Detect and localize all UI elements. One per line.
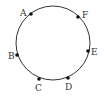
- circle-diagram: AFEDCB: [0, 0, 105, 100]
- point-label-a: A: [19, 8, 27, 18]
- point-label-e: E: [91, 47, 98, 57]
- point-label-c: C: [35, 83, 42, 93]
- point-d: [66, 76, 70, 80]
- point-b: [15, 53, 19, 57]
- point-label-f: F: [82, 10, 88, 20]
- point-e: [86, 49, 90, 53]
- point-label-d: D: [65, 82, 72, 92]
- point-c: [37, 77, 41, 81]
- point-label-b: B: [8, 51, 15, 61]
- point-f: [76, 15, 80, 19]
- point-a: [29, 12, 33, 16]
